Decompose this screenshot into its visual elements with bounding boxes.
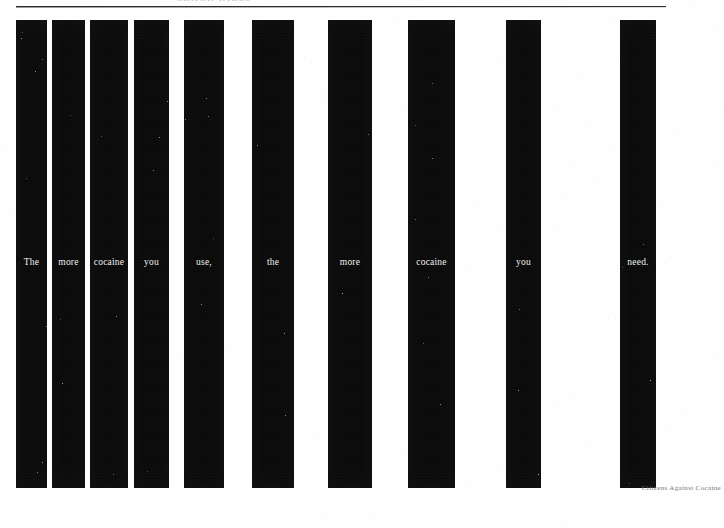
- paper-speck: [26, 178, 27, 179]
- bar-word-label: you: [134, 256, 169, 268]
- paper-speck: [257, 145, 258, 146]
- paper-speck: [440, 404, 441, 405]
- credit-line: Citizens Against Cocaine: [642, 484, 721, 492]
- bar-word-label: cocaine: [408, 256, 455, 268]
- paper-speck: [396, 19, 397, 20]
- paper-speck: [618, 57, 619, 58]
- paper-speck: [208, 116, 209, 117]
- word-bar: you: [506, 20, 541, 488]
- paper-speck: [304, 57, 305, 58]
- paper-speck: [113, 474, 114, 475]
- paper-speck: [718, 31, 719, 32]
- paper-speck: [560, 192, 561, 193]
- paper-speck: [42, 462, 43, 463]
- paper-speck: [177, 359, 178, 360]
- paper-speck: [324, 91, 325, 92]
- paper-speck: [147, 471, 148, 472]
- bar-group: Themorecocaineyouuse,themorecocaineyoune…: [0, 0, 724, 528]
- word-bar: the: [252, 20, 294, 488]
- paper-speck: [321, 96, 322, 97]
- paper-speck: [581, 77, 582, 78]
- bar-word-label: you: [506, 256, 541, 268]
- paper-speck: [159, 137, 160, 138]
- paper-speck: [668, 427, 669, 428]
- paper-speck: [21, 38, 22, 39]
- paper-speck: [70, 115, 71, 116]
- paper-speck: [465, 484, 466, 485]
- bar-word-label: more: [328, 256, 372, 268]
- bar-word-label: cocaine: [90, 256, 128, 268]
- paper-speck: [572, 165, 573, 166]
- paper-speck: [674, 131, 675, 132]
- paper-speck: [629, 483, 630, 484]
- paper-speck: [403, 451, 404, 452]
- paper-speck: [22, 32, 23, 33]
- paper-speck: [615, 318, 616, 319]
- paper-speck: [610, 149, 611, 150]
- paper-speck: [325, 518, 326, 519]
- paper-speck: [518, 390, 519, 391]
- paper-speck: [694, 493, 695, 494]
- word-bar: need.: [620, 20, 656, 488]
- paper-speck: [596, 176, 597, 177]
- paper-speck: [498, 464, 499, 465]
- paper-speck: [499, 230, 500, 231]
- paper-speck: [116, 316, 117, 317]
- paper-speck: [501, 58, 502, 59]
- paper-speck: [554, 228, 555, 229]
- paper-speck: [225, 347, 226, 348]
- paper-speck: [608, 317, 609, 318]
- paper-speck: [371, 517, 372, 518]
- paper-speck: [87, 260, 88, 261]
- paper-speck: [37, 472, 38, 473]
- paper-speck: [9, 214, 10, 215]
- bar-word-label: the: [252, 256, 294, 268]
- paper-speck: [46, 326, 47, 327]
- paper-speck: [415, 219, 416, 220]
- paper-speck: [590, 124, 591, 125]
- paper-speck: [313, 435, 314, 436]
- paper-speck: [662, 205, 663, 206]
- paper-speck: [591, 441, 592, 442]
- word-bar: The: [16, 20, 47, 488]
- paper-speck: [404, 105, 405, 106]
- paper-speck: [423, 343, 424, 344]
- paper-speck: [415, 125, 416, 126]
- paper-speck: [691, 6, 692, 7]
- bar-word-label: more: [52, 256, 85, 268]
- paper-speck: [185, 119, 186, 120]
- paper-speck: [558, 106, 559, 107]
- bar-word-label: need.: [620, 256, 656, 268]
- bar-word-label: The: [16, 256, 47, 268]
- paper-speck: [101, 136, 102, 137]
- paper-speck: [664, 263, 665, 264]
- paper-speck: [130, 129, 131, 130]
- paper-speck: [42, 59, 43, 60]
- paper-speck: [284, 333, 285, 334]
- paper-speck: [609, 23, 610, 24]
- paper-speck: [0, 149, 1, 150]
- bar-word-label: use,: [184, 256, 224, 268]
- paper-speck: [714, 354, 715, 355]
- paper-speck: [538, 474, 539, 475]
- paper-speck: [477, 202, 478, 203]
- paper-speck: [714, 165, 715, 166]
- paper-speck: [368, 134, 369, 135]
- paper-speck: [153, 170, 154, 171]
- word-bar: cocaine: [408, 20, 455, 488]
- paper-speck: [574, 396, 575, 397]
- paper-speck: [722, 110, 723, 111]
- paper-speck: [206, 98, 207, 99]
- paper-speck: [35, 71, 36, 72]
- paper-speck: [552, 404, 553, 405]
- advertisement-page: CRACK KILLS Themorecocaineyouuse,themore…: [0, 0, 724, 528]
- paper-speck: [342, 293, 343, 294]
- paper-speck: [561, 521, 562, 522]
- paper-speck: [650, 380, 651, 381]
- word-bar: use,: [184, 20, 224, 488]
- word-bar: cocaine: [90, 20, 128, 488]
- paper-speck: [201, 304, 202, 305]
- paper-speck: [432, 158, 433, 159]
- paper-speck: [285, 415, 286, 416]
- paper-speck: [428, 277, 429, 278]
